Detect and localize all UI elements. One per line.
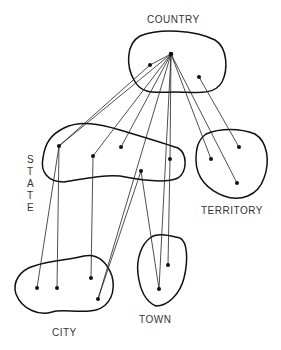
country-label: COUNTRY [147,14,200,25]
city-node [55,286,59,290]
town-region [138,235,187,306]
territory-node [237,145,241,149]
country-region [129,31,226,92]
town-label: TOWN [139,314,171,325]
territory-node [209,157,213,161]
city-region [15,256,113,314]
town-node [166,263,170,267]
state-node [57,144,61,148]
hierarchy-diagram: COUNTRY S T A T E TERRITORY CITY TOWN [0,0,281,350]
state-node [139,169,143,173]
state-node [168,157,172,161]
city-node [96,297,100,301]
state-label-a: A [27,178,34,189]
territory-label: TERRITORY [201,205,263,216]
state-label-e: E [27,202,34,213]
country-center-node [169,52,174,57]
state-node [91,154,95,158]
city-label: CITY [52,327,77,338]
state-label-t2: T [27,190,34,201]
state-label-t: T [27,166,34,177]
town-node [157,287,161,291]
territory-region [196,130,267,199]
country-node [197,75,201,79]
state-node [119,145,123,149]
state-label-s: S [27,154,34,165]
city-node [35,286,39,290]
country-node [148,63,152,67]
state-region [42,124,185,182]
city-node [89,276,93,280]
territory-node [235,181,239,185]
